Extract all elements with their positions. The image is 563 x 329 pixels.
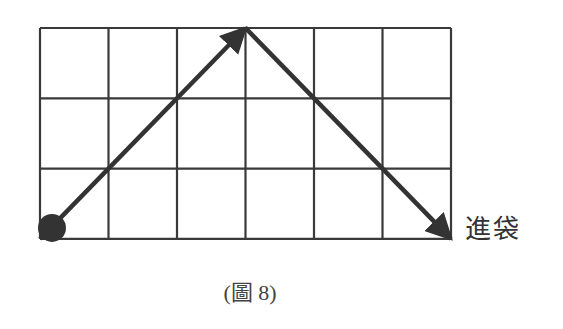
path-arrow	[40, 28, 246, 239]
grid	[40, 28, 451, 239]
pocket-label: 進袋	[465, 208, 521, 245]
figure-caption: (圖 8)	[0, 274, 500, 306]
path-arrow	[246, 28, 452, 239]
ball-start-icon	[38, 214, 66, 242]
